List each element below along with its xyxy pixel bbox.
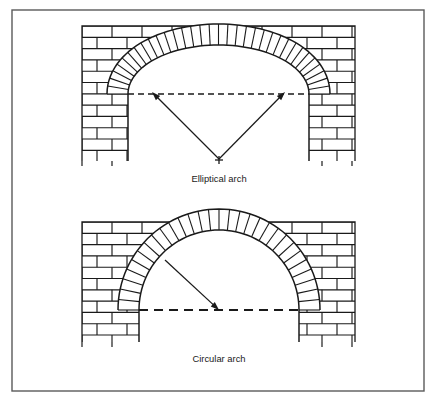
panel-label-circular: Circular arch (192, 353, 245, 364)
arch-types-figure: Elliptical arch Circular arch (0, 0, 438, 405)
figure-background (0, 0, 438, 405)
panel-label-elliptical: Elliptical arch (191, 173, 246, 184)
